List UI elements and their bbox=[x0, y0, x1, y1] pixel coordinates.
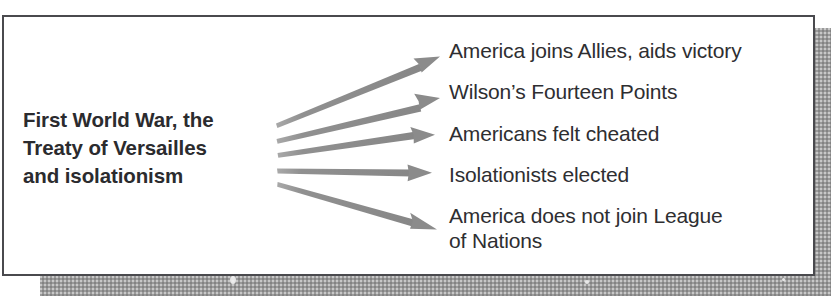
source-concept-line-2: Treaty of Versailles bbox=[23, 134, 263, 162]
outcome-item-2: Wilson’s Fourteen Points bbox=[449, 79, 677, 104]
outcome-item-1: America joins Allies, aids victory bbox=[449, 38, 742, 63]
shadow-speck bbox=[585, 280, 589, 284]
shadow-speck bbox=[230, 276, 236, 284]
source-concept-label: First World War, the Treaty of Versaille… bbox=[23, 106, 263, 190]
source-concept-line-1: First World War, the bbox=[23, 106, 263, 134]
shadow-speck bbox=[782, 278, 785, 281]
outcome-item-3: Americans felt cheated bbox=[449, 121, 659, 146]
source-concept-line-3: and isolationism bbox=[23, 162, 263, 190]
outcome-item-4: Isolationists elected bbox=[449, 162, 629, 187]
outcome-item-5: America does not join League of Nations bbox=[449, 203, 723, 253]
diagram-page: First World War, the Treaty of Versaille… bbox=[0, 0, 831, 296]
